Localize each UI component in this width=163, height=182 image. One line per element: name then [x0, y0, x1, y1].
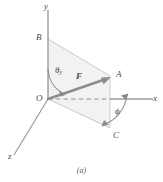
- point-label-A: A: [116, 70, 122, 79]
- axis-z-line: [14, 99, 48, 155]
- force-vector-diagram: y x z O B A C F θy ϕ (a): [0, 0, 163, 182]
- axis-label-y: y: [44, 2, 48, 11]
- shaded-parallelogram: [48, 39, 110, 128]
- point-label-O: O: [36, 94, 43, 103]
- axis-label-z: z: [8, 152, 12, 161]
- point-label-B: B: [36, 33, 42, 42]
- diagram-canvas: [0, 0, 163, 182]
- axis-label-x: x: [153, 94, 157, 103]
- figure-caption: (a): [0, 166, 163, 175]
- angle-label-theta-y: θy: [55, 66, 62, 75]
- force-vector-label: F: [76, 72, 82, 81]
- angle-theta-subscript: y: [59, 69, 62, 75]
- angle-label-phi: ϕ: [115, 107, 120, 116]
- point-label-C: C: [113, 131, 119, 140]
